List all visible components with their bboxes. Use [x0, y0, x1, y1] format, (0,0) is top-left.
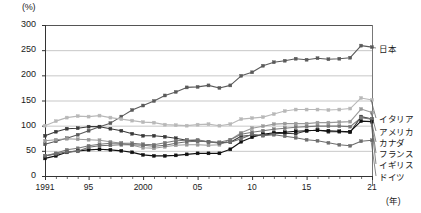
series-label-1: イタリア: [379, 112, 414, 124]
gridlines: [45, 26, 372, 152]
y-axis-tickmarks: [42, 26, 45, 177]
data-series: [44, 44, 374, 160]
series-label-0: 日本: [379, 42, 396, 54]
series-label-5: イギリス: [379, 158, 414, 170]
plot-area: [0, 0, 421, 213]
series-label-6: ドイツ: [379, 170, 405, 182]
chart-container: (%) (年) 050100150200250300 1991952000051…: [0, 0, 421, 213]
plot-frame: [45, 25, 373, 186]
